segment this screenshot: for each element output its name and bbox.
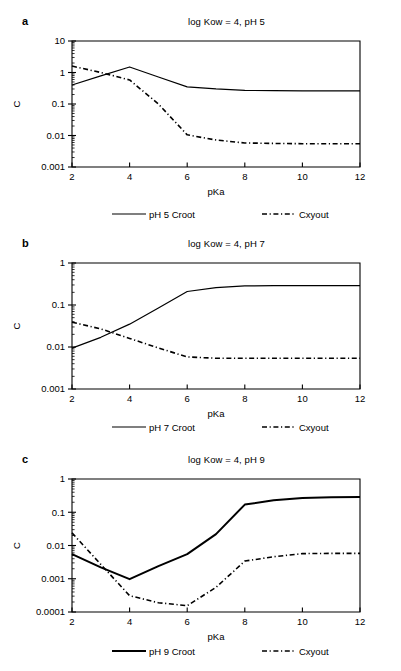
plot-area-b: 0.0010.010.1124681012pKaC <box>0 252 401 426</box>
panel-b: b log Kow = 4, pH 7 0.0010.010.112468101… <box>0 230 401 442</box>
x-axis-tick-label: 10 <box>297 393 308 404</box>
y-axis-tick-label: 1 <box>60 257 65 268</box>
x-axis-tick-label: 2 <box>69 393 74 404</box>
legend-cxyout-label: Cxyout <box>299 209 329 220</box>
y-axis-tick-label: 0.001 <box>41 573 65 584</box>
x-axis-tick-label: 12 <box>355 171 366 182</box>
panel-a: a log Kow = 4, pH 5 0.0010.010.111024681… <box>0 0 401 230</box>
y-axis-tick-label: 0.1 <box>52 98 65 109</box>
series-line <box>72 286 360 349</box>
chart-svg: 0.0010.010.1124681012pKaC <box>0 252 401 422</box>
x-axis-tick-label: 12 <box>355 616 366 627</box>
panel-title-b: log Kow = 4, pH 7 <box>0 238 401 249</box>
series-line <box>72 497 360 579</box>
y-axis-title: C <box>11 322 22 329</box>
x-axis-tick-label: 8 <box>242 393 247 404</box>
y-axis-tick-label: 0.001 <box>41 161 65 172</box>
series-line <box>72 67 360 91</box>
panel-c: c log Kow = 4, pH 9 0.00010.0010.010.112… <box>0 442 401 671</box>
y-axis-tick-label: 1 <box>60 473 65 484</box>
legend-c: pH 9 CrootCxyout <box>0 642 401 660</box>
x-axis-title: pKa <box>208 186 226 197</box>
series-line <box>72 533 360 606</box>
legend-croot-label: pH 9 Croot <box>149 646 195 657</box>
y-axis-tick-label: 0.01 <box>47 341 66 352</box>
y-axis-tick-label: 0.001 <box>41 383 65 394</box>
x-axis-tick-label: 2 <box>69 616 74 627</box>
x-axis-tick-label: 10 <box>297 616 308 627</box>
plot-area-c: 0.00010.0010.010.1124681012pKaC <box>0 468 401 649</box>
x-axis-tick-label: 6 <box>185 616 190 627</box>
legend-cxyout-label: Cxyout <box>299 422 329 433</box>
y-axis-title: C <box>11 542 22 549</box>
x-axis-tick-label: 4 <box>127 171 132 182</box>
series-line <box>72 66 360 144</box>
plot-frame <box>72 263 360 389</box>
plot-frame <box>72 41 360 167</box>
x-axis-tick-label: 4 <box>127 616 132 627</box>
plot-area-a: 0.0010.010.111024681012pKaC <box>0 30 401 204</box>
figure-container: a log Kow = 4, pH 5 0.0010.010.111024681… <box>0 0 401 671</box>
chart-svg: 0.0010.010.111024681012pKaC <box>0 30 401 200</box>
legend-cxyout-label: Cxyout <box>299 646 329 657</box>
y-axis-tick-label: 1 <box>60 67 65 78</box>
y-axis-tick-label: 0.1 <box>52 299 65 310</box>
legend-svg: pH 5 CrootCxyout <box>0 205 401 223</box>
panel-title-a: log Kow = 4, pH 5 <box>0 16 401 27</box>
plot-frame <box>72 479 360 612</box>
x-axis-title: pKa <box>208 631 226 642</box>
legend-croot-label: pH 5 Croot <box>149 209 195 220</box>
y-axis-tick-label: 10 <box>54 35 65 46</box>
legend-svg: pH 7 CrootCxyout <box>0 418 401 436</box>
x-axis-tick-label: 4 <box>127 393 132 404</box>
y-axis-title: C <box>11 100 22 107</box>
x-axis-tick-label: 2 <box>69 171 74 182</box>
y-axis-tick-label: 0.01 <box>47 130 66 141</box>
x-axis-tick-label: 6 <box>185 171 190 182</box>
x-axis-tick-label: 10 <box>297 171 308 182</box>
y-axis-tick-label: 0.01 <box>47 540 66 551</box>
legend-b: pH 7 CrootCxyout <box>0 418 401 436</box>
x-axis-tick-label: 8 <box>242 616 247 627</box>
legend-croot-label: pH 7 Croot <box>149 422 195 433</box>
x-axis-tick-label: 12 <box>355 393 366 404</box>
y-axis-tick-label: 0.0001 <box>36 606 65 617</box>
series-line <box>72 322 360 358</box>
chart-svg: 0.00010.0010.010.1124681012pKaC <box>0 468 401 645</box>
legend-a: pH 5 CrootCxyout <box>0 205 401 223</box>
y-axis-tick-label: 0.1 <box>52 507 65 518</box>
legend-svg: pH 9 CrootCxyout <box>0 642 401 660</box>
x-axis-tick-label: 8 <box>242 171 247 182</box>
x-axis-tick-label: 6 <box>185 393 190 404</box>
panel-title-c: log Kow = 4, pH 9 <box>0 454 401 465</box>
